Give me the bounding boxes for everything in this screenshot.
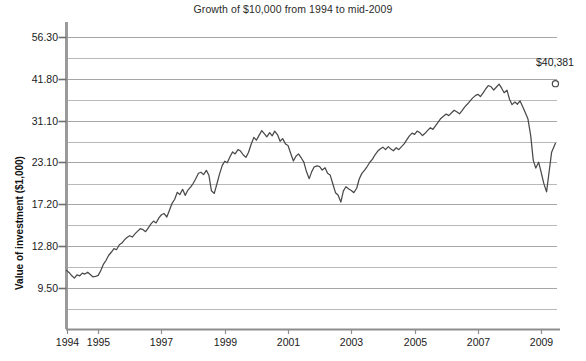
x-tick-label: 2009 <box>522 336 562 348</box>
y-tick-label: 9.50 <box>12 282 58 294</box>
x-tick-label: 2001 <box>269 336 309 348</box>
value-callout-label: $40,381 <box>536 56 574 68</box>
x-tick-label: 1997 <box>142 336 182 348</box>
y-tick-label: 23.10 <box>12 156 58 168</box>
minor-gridlines-group <box>67 59 558 310</box>
x-tick-label: 2007 <box>459 336 499 348</box>
endpoint-marker-icon <box>552 81 558 87</box>
x-tick-label: 1999 <box>206 336 246 348</box>
major-gridlines-group <box>67 38 558 289</box>
y-tick-label: 17.20 <box>12 198 58 210</box>
x-tick-label: 2003 <box>332 336 372 348</box>
plot-area <box>0 0 586 361</box>
data-line-series <box>67 84 556 278</box>
y-tick-label: 41.80 <box>12 73 58 85</box>
y-tick-label: 56.30 <box>12 31 58 43</box>
y-tick-label: 12.80 <box>12 240 58 252</box>
axis-lines-group <box>66 22 560 330</box>
y-tick-label: 31.10 <box>12 115 58 127</box>
chart-container: Growth of $10,000 from 1994 to mid-2009 … <box>0 0 586 361</box>
x-tick-label: 1995 <box>79 336 119 348</box>
x-tick-label: 2005 <box>396 336 436 348</box>
